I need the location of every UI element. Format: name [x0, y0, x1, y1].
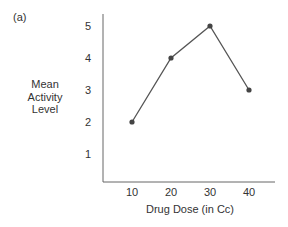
- data-point: [207, 23, 212, 28]
- y-tick-label: 4: [85, 52, 91, 64]
- y-tick-label: 1: [85, 148, 91, 160]
- y-tick-label: 3: [85, 84, 91, 96]
- y-axis-title-line-1: Mean: [31, 78, 59, 90]
- data-point: [246, 87, 251, 92]
- x-tick-label: 30: [204, 186, 216, 198]
- series-line: [132, 26, 249, 122]
- data-point: [168, 55, 173, 60]
- x-axis-title: Drug Dose (in Cc): [146, 203, 234, 215]
- line-chart: (a) Mean Activity Level 12345 10203040 D…: [0, 0, 288, 227]
- y-tick-labels: 12345: [85, 20, 91, 160]
- data-point-markers: [129, 23, 251, 124]
- x-tick-label: 20: [165, 186, 177, 198]
- y-tick-label: 2: [85, 116, 91, 128]
- y-axis-title-line-3: Level: [32, 103, 58, 115]
- x-tick-labels: 10203040: [126, 186, 255, 198]
- data-point: [129, 119, 134, 124]
- y-tick-label: 5: [85, 20, 91, 32]
- y-axis-title: Mean Activity Level: [28, 78, 63, 115]
- x-tick-label: 10: [126, 186, 138, 198]
- x-tick-label: 40: [243, 186, 255, 198]
- panel-label: (a): [13, 11, 26, 23]
- axes: [103, 14, 275, 182]
- y-axis-title-line-2: Activity: [28, 91, 63, 103]
